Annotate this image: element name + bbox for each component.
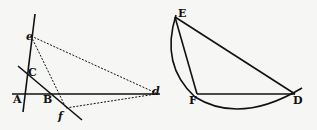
label-D: D	[293, 94, 303, 107]
geometry-diagram: A B C e f d E F D	[0, 0, 317, 130]
label-f: f	[57, 110, 65, 123]
label-C: C	[28, 66, 37, 79]
label-d: d	[152, 85, 160, 98]
label-A: A	[12, 93, 22, 106]
vertical-line-ae	[23, 14, 35, 112]
dotted-line-fd	[66, 94, 156, 108]
label-e: e	[26, 30, 33, 43]
label-B: B	[43, 93, 52, 106]
dotted-line-ed	[31, 36, 156, 93]
label-E: E	[178, 7, 186, 20]
label-F: F	[189, 94, 197, 107]
